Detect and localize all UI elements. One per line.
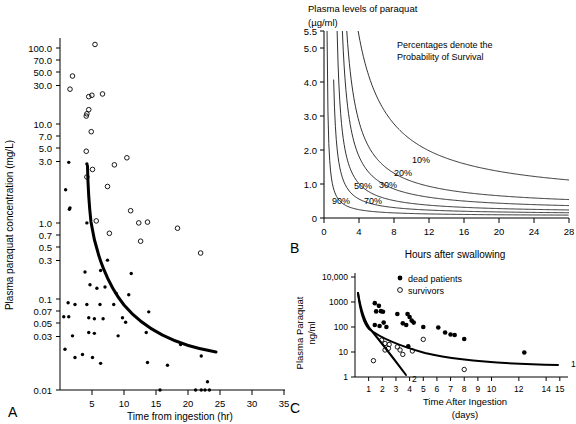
panel-c-curve-1	[358, 293, 558, 365]
data-point-filled	[81, 353, 84, 356]
y-tick-label: 70.0	[34, 55, 53, 66]
data-point-filled	[67, 315, 70, 318]
y-tick-label: 0.5	[39, 242, 52, 253]
data-point-filled	[448, 332, 453, 337]
data-point-filled	[71, 334, 74, 337]
y-tick-label: 5.5	[304, 26, 317, 37]
data-point-filled	[95, 287, 98, 290]
data-point-open	[94, 219, 99, 224]
panel-c-legend: dead patients survivors	[398, 274, 463, 296]
x-tick-label: 12	[514, 384, 524, 394]
data-point-open	[371, 358, 375, 362]
data-point-filled	[421, 325, 426, 330]
x-tick-label: 28	[564, 226, 575, 237]
panel-a-x-axis-title: Time from ingestion (hr)	[127, 411, 233, 422]
x-tick-label: 0	[321, 226, 326, 237]
y-tick-label: 50.0	[34, 67, 53, 78]
data-point-open	[198, 251, 203, 256]
panel-c-curve-2	[358, 293, 406, 375]
data-point-filled	[377, 304, 382, 309]
x-tick-label: 35	[279, 398, 290, 409]
data-point-filled	[68, 206, 71, 209]
x-tick-label: 4	[356, 226, 361, 237]
data-point-filled	[372, 323, 377, 328]
legend-label-dead: dead patients	[408, 274, 463, 284]
data-point-filled	[158, 388, 161, 391]
data-point-open	[68, 87, 73, 92]
panel-c-curve-2-label: 2	[412, 374, 417, 384]
legend-marker-survivors	[398, 288, 403, 293]
data-point-open	[90, 167, 95, 172]
y-tick-label: 10.0	[34, 119, 53, 130]
y-tick-label: 2.0	[304, 145, 317, 156]
y-tick-label: 0.07	[34, 306, 53, 317]
data-point-open	[136, 221, 141, 226]
data-point-filled	[87, 331, 90, 334]
data-point-filled	[443, 330, 448, 335]
data-point-filled	[206, 380, 209, 383]
panel-a-y-axis-title: Plasma paraquat concentration (mg/L)	[4, 140, 15, 310]
legend-marker-dead	[398, 276, 403, 281]
data-point-filled	[88, 283, 91, 286]
data-point-filled	[374, 309, 379, 314]
data-point-filled	[381, 320, 386, 325]
panel-b-note-line2: Probability of Survival	[397, 52, 484, 62]
data-point-filled	[522, 350, 527, 355]
x-tick-label: 10	[487, 384, 497, 394]
data-point-filled	[146, 361, 149, 364]
curve-label-50pct: 50%	[354, 181, 372, 191]
curve-label-70pct: 70%	[364, 196, 382, 206]
x-tick-label: 4	[407, 384, 412, 394]
panel-c-y-axis-title-line2: ng/ml	[306, 321, 317, 344]
y-tick-label: 0	[312, 213, 317, 224]
curve-label-20pct: 20%	[394, 168, 412, 178]
y-tick-label: 1	[343, 372, 348, 382]
data-point-filled	[93, 332, 96, 335]
data-point-open	[128, 208, 133, 213]
panel-b-chart: Plasma levels of paraquat (µg/ml) Percen…	[290, 0, 576, 270]
y-tick-label: 100	[334, 322, 348, 332]
data-point-filled	[99, 362, 102, 365]
data-point-filled	[116, 334, 119, 337]
data-point-filled	[127, 293, 130, 296]
x-tick-label: 7	[448, 384, 453, 394]
data-point-filled	[73, 356, 76, 359]
x-tick-label: 5	[421, 384, 426, 394]
data-point-open	[86, 107, 91, 112]
y-tick-label: 1.0	[39, 218, 52, 229]
data-point-open	[138, 239, 143, 244]
data-point-filled	[64, 188, 67, 191]
panel-b: Plasma levels of paraquat (µg/ml) Percen…	[290, 0, 576, 270]
data-point-open	[100, 92, 105, 97]
x-tick-label: 15	[151, 398, 162, 409]
y-tick-label: 5.0	[39, 143, 52, 154]
x-tick-label: 1	[366, 384, 371, 394]
data-point-filled	[372, 301, 377, 306]
y-tick-label: 0.3	[39, 255, 52, 266]
data-point-filled	[98, 303, 101, 306]
x-tick-label: 30	[247, 398, 258, 409]
panel-c-y-ticks: 10,000 1000 100 10 1	[322, 272, 355, 382]
data-point-open	[107, 231, 112, 236]
data-point-filled	[93, 317, 96, 320]
x-tick-label: 24	[529, 226, 540, 237]
data-point-filled	[99, 269, 102, 272]
data-point-filled	[384, 325, 389, 330]
data-point-filled	[85, 303, 88, 306]
data-point-open	[125, 155, 130, 160]
y-tick-label: 3.0	[39, 156, 52, 167]
y-tick-label: 3.0	[304, 111, 317, 122]
panel-a: Plasma paraquat concentration (mg/L) 100…	[0, 0, 290, 424]
panel-b-x-axis-title: Hours after swallowing	[405, 249, 506, 260]
x-tick-label: 25	[215, 398, 226, 409]
data-point-filled	[404, 323, 409, 328]
x-tick-label: 14	[541, 384, 551, 394]
data-point-open	[462, 367, 466, 371]
data-point-open	[421, 337, 425, 341]
curve-label-30pct: 30%	[379, 180, 397, 190]
data-point-filled	[145, 331, 148, 334]
y-tick-label: 30.0	[34, 80, 53, 91]
data-point-filled	[66, 301, 69, 304]
panel-a-data-points	[62, 42, 211, 392]
data-point-open	[89, 129, 94, 134]
